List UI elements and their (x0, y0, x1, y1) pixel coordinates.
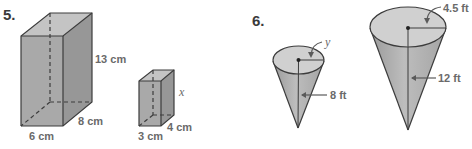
small-prism: x 4 cm 3 cm (138, 70, 192, 142)
center-dot (406, 26, 410, 30)
problem-5: 5. 13 cm 8 cm 6 cm x (3, 6, 192, 142)
small-prism-depth-label: 4 cm (167, 121, 192, 133)
center-dot (297, 58, 301, 62)
small-cone-height-label: 8 ft (330, 89, 347, 101)
large-prism-depth-label: 8 cm (78, 115, 103, 127)
large-cone-radius-label: 4.5 ft (443, 2, 469, 14)
large-prism-height-label: 13 cm (95, 53, 126, 65)
large-prism: 13 cm 8 cm 6 cm (21, 13, 126, 142)
large-prism-width-label: 6 cm (29, 130, 54, 142)
problem-6: 6. y 8 ft 4.5 f (252, 2, 469, 130)
small-prism-width-label: 3 cm (138, 130, 163, 142)
small-cone: y 8 ft (273, 35, 347, 128)
large-cone-height-label: 12 ft (438, 72, 461, 84)
front-face (139, 81, 161, 126)
small-cone-radius-label: y (324, 35, 331, 49)
small-prism-height-label: x (178, 85, 185, 99)
front-face (21, 36, 63, 126)
geometry-figure: 5. 13 cm 8 cm 6 cm x (0, 0, 472, 149)
problem-number: 5. (3, 6, 16, 23)
large-cone: 4.5 ft 12 ft (370, 2, 469, 130)
height-line (298, 60, 299, 128)
problem-number: 6. (252, 12, 265, 29)
